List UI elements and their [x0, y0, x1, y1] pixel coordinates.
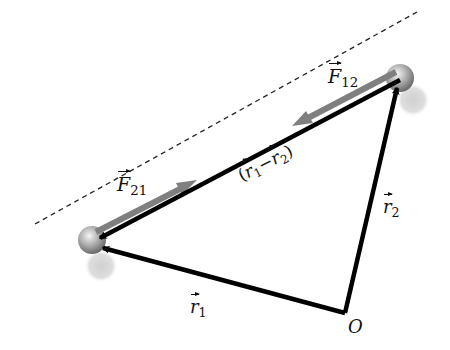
force-arrows [96, 72, 396, 232]
r1-symbol: r [190, 298, 199, 316]
force-F12-head [292, 111, 313, 126]
label-r1: r1 [190, 298, 207, 319]
F21-symbol: F [117, 175, 130, 194]
r2-symbol: r [383, 198, 392, 216]
label-F12: F12 [328, 67, 358, 89]
label-F21: F21 [117, 175, 147, 197]
r1-subscript: 1 [199, 305, 207, 320]
label-r2: r2 [383, 198, 400, 219]
label-origin: O [348, 318, 363, 336]
vector-r1 [103, 248, 345, 313]
F12-symbol: F [328, 67, 341, 86]
line-of-centers [35, 12, 417, 224]
r2-subscript: 2 [392, 205, 400, 220]
particle-1-shadow [84, 249, 118, 283]
F21-subscript: 21 [130, 183, 147, 198]
diagram-svg [0, 0, 450, 350]
relative-vector [100, 80, 400, 238]
F12-subscript: 12 [341, 75, 358, 90]
diagram-canvas: F12 F21 (r1−r2) r2 r1 O [0, 0, 450, 350]
